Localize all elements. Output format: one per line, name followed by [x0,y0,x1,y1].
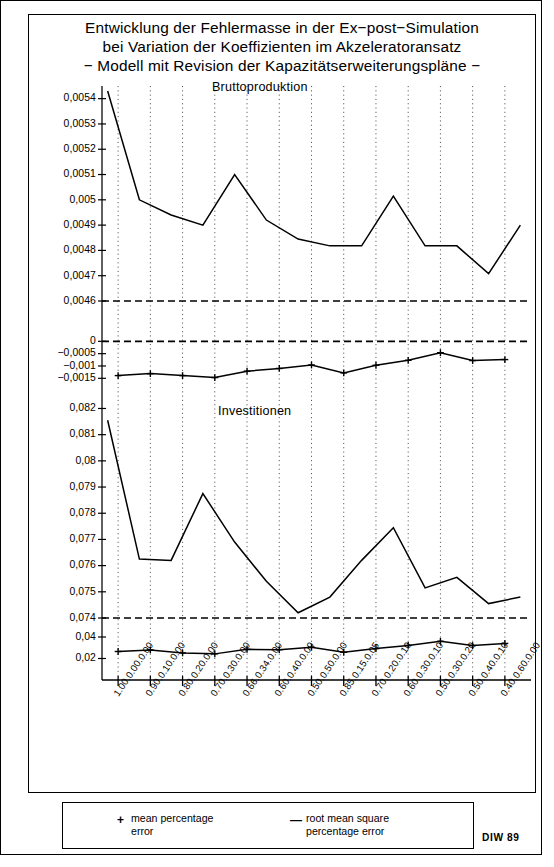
ytick-bruttoproduktion-label-7: 0,0053 [20,119,96,129]
ytick-investitionen-label-5: 0,079 [20,482,96,492]
ytick-bruttoproduktion-label-3: 0,0049 [20,220,96,230]
legend-label-1-line1: root mean square [306,812,389,825]
ytick-investitionen-label-1: 0,075 [20,587,96,597]
ytick-mpe-lower-label-0: 0,02 [20,653,96,663]
panel-caption-bruttoproduktion: Bruttoproduktion [212,80,308,94]
ytick-mpe-upper-label-2: −0,0005 [20,348,96,358]
ytick-investitionen-label-2: 0,076 [20,560,96,570]
ytick-investitionen-label-4: 0,078 [20,508,96,518]
title-line-3: − Modell mit Revision der Kapazitätserwe… [30,56,534,75]
ytick-investitionen-label-8: 0,082 [20,403,96,413]
ytick-bruttoproduktion-label-5: 0,0051 [20,169,96,179]
ytick-bruttoproduktion-label-6: 0,0052 [20,144,96,154]
ytick-mpe-upper-label-0: −0,0015 [20,373,96,383]
legend-label-1: root mean squarepercentage error [306,812,389,837]
ytick-bruttoproduktion-label-2: 0,0048 [20,245,96,255]
legend-symbol-1: — [290,814,302,826]
panel-caption-investitionen: Investitionen [218,404,291,418]
ytick-investitionen-label-7: 0,081 [20,429,96,439]
source-mark: DIW 89 [482,832,520,843]
ytick-bruttoproduktion-label-0: 0,0046 [20,296,96,306]
legend-label-0: mean percentageerror [131,812,213,837]
ytick-bruttoproduktion-label-8: 0,0054 [20,93,96,103]
legend-symbol-0: + [117,814,124,826]
ytick-mpe-upper-label-1: −0,001 [20,361,96,371]
legend-label-0-line2: error [131,825,213,838]
title-line-2: bei Variation der Koeffizienten im Akzel… [30,37,534,56]
ytick-bruttoproduktion-label-4: 0,005 [20,195,96,205]
legend-label-0-line1: mean percentage [131,812,213,825]
ytick-investitionen-label-3: 0,077 [20,534,96,544]
chart-page: Entwicklung der Fehlermasse in der Ex−po… [0,0,554,867]
ytick-investitionen-label-6: 0,08 [20,456,96,466]
ytick-bruttoproduktion-label-1: 0,0047 [20,271,96,281]
chart-title: Entwicklung der Fehlermasse in der Ex−po… [30,18,534,76]
ytick-investitionen-label-0: 0,074 [20,613,96,623]
ytick-mpe-lower-label-1: 0,04 [20,632,96,642]
ytick-mpe-upper-label-3: 0 [20,336,96,346]
legend-label-1-line2: percentage error [306,825,389,838]
title-line-1: Entwicklung der Fehlermasse in der Ex−po… [30,18,534,37]
